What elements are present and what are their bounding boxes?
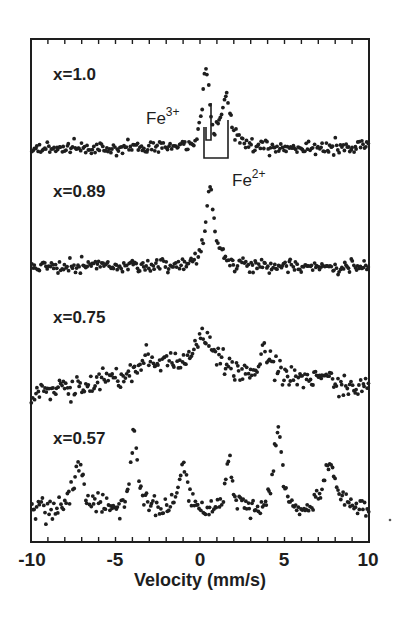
x-tick-label: 0: [195, 549, 206, 570]
series-label-x075: x=0.75: [53, 308, 105, 327]
series-label-x1: x=1.0: [53, 65, 96, 84]
series-label-x089: x=0.89: [53, 182, 105, 201]
x-tick-label: 5: [279, 549, 290, 570]
x-tick-label: -5: [107, 549, 124, 570]
stray-speck: [389, 519, 392, 522]
x-axis-title: Velocity (mm/s): [134, 570, 266, 590]
x-tick-label: -10: [18, 549, 45, 570]
mossbauer-chart: x=1.0 x=0.89 x=0.75 x=0.57 Fe3+ Fe2+ -10…: [0, 0, 410, 631]
x-tick-label: 10: [357, 549, 378, 570]
series-label-x057: x=0.57: [53, 429, 105, 448]
